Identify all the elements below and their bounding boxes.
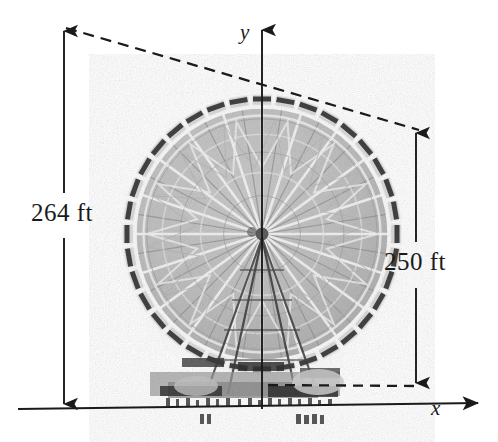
y-axis-label: y: [240, 22, 249, 43]
gondola: [391, 224, 402, 244]
ground-crowd: [166, 398, 332, 424]
wheel-hub-shadow: [247, 227, 257, 237]
gondola: [123, 224, 134, 244]
dimension-label-250: 250 ft: [384, 249, 446, 274]
dimension-label-264: 264 ft: [31, 200, 93, 225]
ferris-wheel-photograph: [112, 88, 408, 424]
ferris-wheel-dimension-figure: 264 ft 250 ft y x: [0, 0, 498, 442]
bottom-leader-line: [268, 385, 417, 386]
x-axis-label: x: [431, 398, 440, 419]
